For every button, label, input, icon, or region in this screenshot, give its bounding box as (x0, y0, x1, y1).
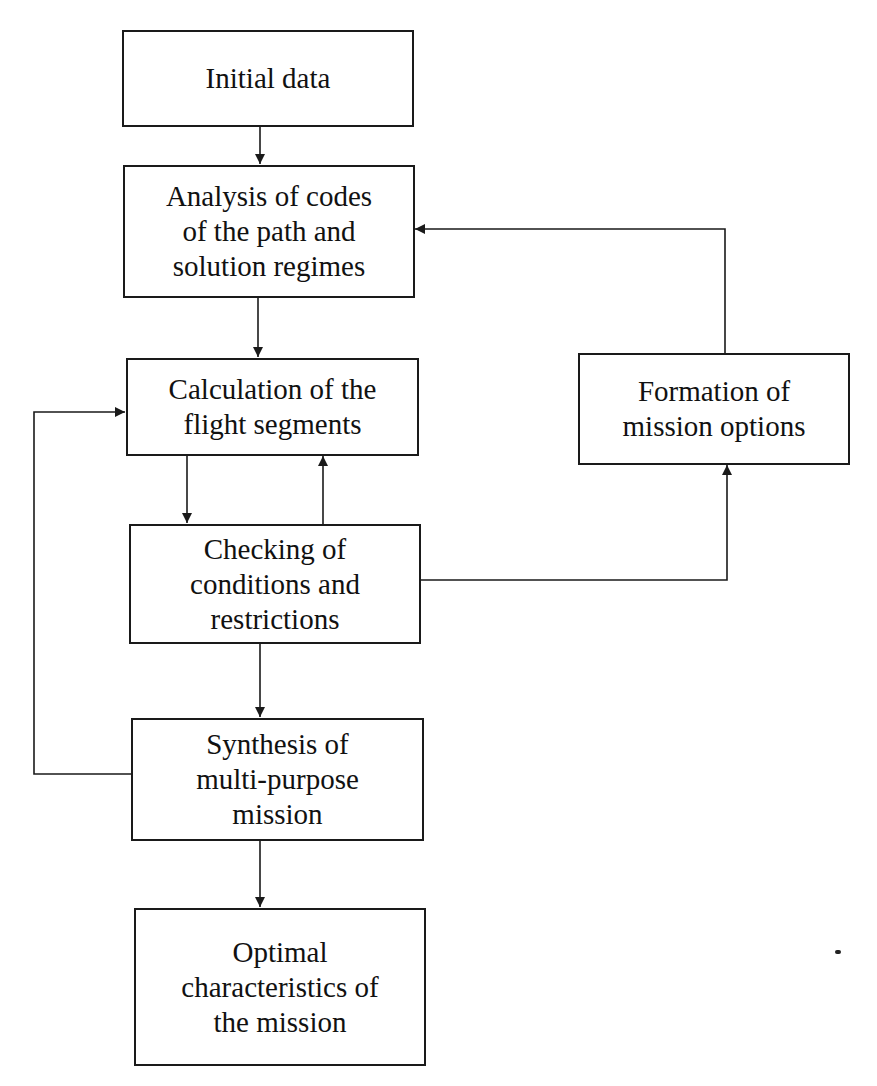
node-calculation: Calculation of the flight segments (126, 358, 419, 456)
node-label: Initial data (206, 61, 331, 96)
node-label: Optimal characteristics of the mission (181, 935, 378, 1040)
node-label: Checking of conditions and restrictions (190, 532, 360, 637)
node-synthesis: Synthesis of multi-purpose mission (131, 718, 424, 841)
node-initial-data: Initial data (122, 30, 414, 127)
edge-synthesis-to-calculation (34, 412, 131, 774)
flowchart-canvas: Initial data Analysis of codes of the pa… (0, 0, 877, 1086)
edge-formation-to-analysis (415, 229, 725, 353)
node-label: Analysis of codes of the path and soluti… (166, 179, 372, 284)
node-analysis: Analysis of codes of the path and soluti… (123, 165, 415, 298)
node-label: Formation of mission options (623, 374, 806, 444)
node-label: Calculation of the flight segments (169, 372, 377, 442)
node-formation: Formation of mission options (578, 353, 850, 465)
node-label: Synthesis of multi-purpose mission (196, 727, 359, 832)
node-optimal: Optimal characteristics of the mission (134, 908, 426, 1066)
scan-artifact-dot (835, 950, 841, 954)
node-checking: Checking of conditions and restrictions (129, 524, 421, 644)
edge-checking-to-formation (420, 465, 727, 580)
